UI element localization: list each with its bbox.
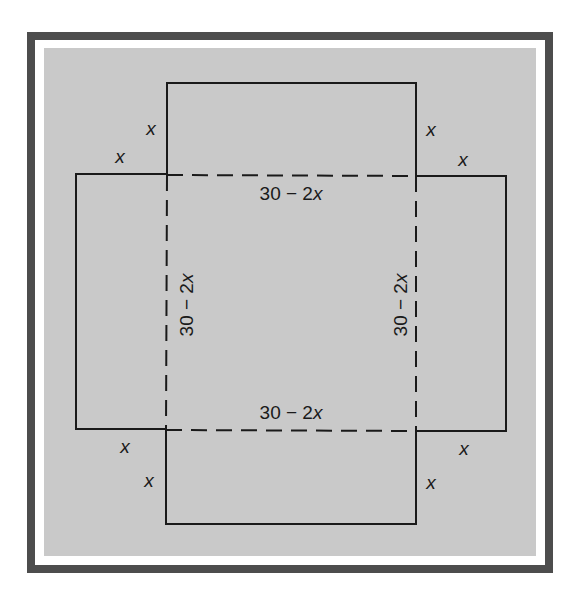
corner-label-bottom-right-lower: x bbox=[425, 472, 437, 493]
label-top-side: 30 − 2x bbox=[260, 183, 324, 204]
box-net-diagram: 30 − 2x 30 − 2x 30 − 2x 30 − 2x x x x x … bbox=[0, 0, 579, 597]
fold-line-top bbox=[167, 175, 416, 176]
label-right-side: 30 − 2x bbox=[390, 272, 411, 336]
corner-label-top-right-lower: x bbox=[457, 149, 469, 170]
fold-line-bottom bbox=[166, 430, 416, 431]
label-left-side: 30 − 2x bbox=[176, 272, 197, 336]
corner-label-top-right-upper: x bbox=[425, 119, 437, 140]
net-outline bbox=[76, 83, 506, 524]
fold-line-left bbox=[166, 175, 167, 430]
corner-label-bottom-left-lower: x bbox=[143, 470, 155, 491]
corner-label-top-left-upper: x bbox=[145, 118, 157, 139]
corner-label-bottom-left-upper: x bbox=[119, 436, 131, 457]
corner-label-bottom-right-upper: x bbox=[458, 438, 470, 459]
corner-label-top-left-lower: x bbox=[114, 146, 126, 167]
label-bottom-side: 30 − 2x bbox=[260, 402, 324, 423]
